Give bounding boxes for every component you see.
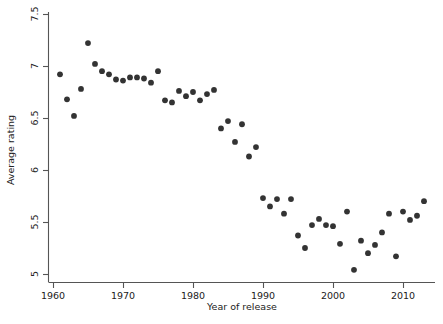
scatter-chart: 55.566.577.5 196019701980199020002010 Av… xyxy=(0,0,443,324)
data-point xyxy=(393,253,399,259)
data-point xyxy=(57,71,63,77)
data-point xyxy=(288,196,294,202)
data-point xyxy=(407,217,413,223)
data-point xyxy=(323,222,329,228)
data-point xyxy=(379,230,385,236)
y-axis-ticks xyxy=(43,15,49,275)
data-point xyxy=(162,97,168,103)
data-point xyxy=(211,87,217,93)
data-point xyxy=(197,97,203,103)
data-point xyxy=(246,154,252,160)
data-point xyxy=(351,267,357,273)
data-point xyxy=(106,71,112,77)
data-point xyxy=(85,40,91,46)
data-point xyxy=(176,88,182,94)
data-point xyxy=(267,204,273,210)
data-point xyxy=(386,211,392,217)
data-point xyxy=(92,61,98,67)
data-point xyxy=(225,118,231,124)
data-point xyxy=(330,223,336,229)
data-point xyxy=(78,86,84,92)
data-point xyxy=(309,222,315,228)
data-point xyxy=(190,89,196,95)
data-points xyxy=(57,40,427,273)
data-point xyxy=(281,211,287,217)
plot-area xyxy=(0,0,443,324)
data-point xyxy=(295,233,301,239)
data-point xyxy=(239,121,245,127)
data-point xyxy=(400,209,406,215)
data-point xyxy=(134,75,140,81)
data-point xyxy=(127,75,133,81)
data-point xyxy=(99,68,105,74)
data-point xyxy=(316,216,322,222)
data-point xyxy=(155,68,161,74)
data-point xyxy=(344,209,350,215)
data-point xyxy=(337,241,343,247)
data-point xyxy=(232,139,238,145)
data-point xyxy=(141,76,147,82)
data-point xyxy=(204,91,210,97)
data-point xyxy=(253,144,259,150)
data-point xyxy=(274,196,280,202)
data-point xyxy=(302,245,308,251)
data-point xyxy=(183,93,189,99)
x-axis-ticks xyxy=(54,283,404,289)
data-point xyxy=(358,238,364,244)
data-point xyxy=(372,242,378,248)
data-point xyxy=(169,100,175,106)
data-point xyxy=(71,113,77,119)
data-point xyxy=(365,250,371,256)
data-point xyxy=(421,198,427,204)
data-point xyxy=(120,78,126,84)
data-point xyxy=(148,80,154,86)
data-point xyxy=(113,77,119,83)
data-point xyxy=(64,96,70,102)
data-point xyxy=(414,213,420,219)
data-point xyxy=(260,195,266,201)
data-point xyxy=(218,125,224,131)
